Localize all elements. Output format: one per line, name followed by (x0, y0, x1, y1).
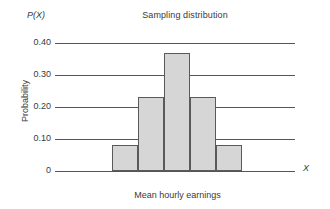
bar (216, 145, 242, 171)
bar (190, 97, 216, 171)
y-axis-tick-label: 0 (11, 165, 51, 175)
bar (138, 97, 164, 171)
y-axis-symbol-label: P(X) (27, 10, 45, 20)
y-axis-tick-label: 0.30 (11, 69, 51, 79)
bar (164, 53, 190, 171)
chart-title: Sampling distribution (110, 10, 260, 20)
chart-figure: P(X) Sampling distribution Probability 0… (0, 0, 330, 209)
x-axis-baseline: 0 (55, 171, 295, 172)
plot-area: 0.400.300.200.1007.507.758.008.258.50 (55, 43, 295, 171)
gridline: 0.40 (55, 43, 295, 44)
x-axis-title: Mean hourly earnings (105, 190, 250, 200)
x-axis-symbol-label: X (303, 163, 309, 173)
bar (112, 145, 138, 171)
y-axis-tick-label: 0.10 (11, 133, 51, 143)
y-axis-tick-label: 0.40 (11, 37, 51, 47)
y-axis-tick-label: 0.20 (11, 101, 51, 111)
